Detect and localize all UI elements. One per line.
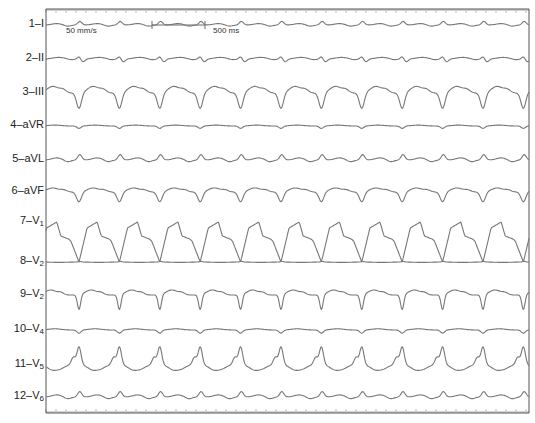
lead-label-7: 7–V1 [20, 214, 44, 230]
lead-label-12: 12–V6 [14, 389, 44, 405]
lead-label-8: 8–V2 [20, 254, 44, 270]
lead-trace-10 [46, 329, 529, 333]
lead-trace-5 [46, 155, 529, 162]
lead-trace-7 [46, 222, 529, 262]
lead-trace-2 [46, 57, 529, 62]
top-ruler-ticks [46, 9, 528, 13]
lead-trace-6 [46, 188, 529, 202]
lead-label-9: 9–V2 [20, 287, 44, 303]
lead-trace-11 [46, 347, 529, 371]
lead-label-5: 5–aVL [12, 152, 44, 164]
ecg-figure: 1–I2–II3–III4–aVR5–aVL6–aVF7–V18–V29–V21… [0, 0, 535, 423]
scale-bar-label: 500 ms [213, 26, 239, 35]
lead-label-4: 4–aVR [10, 118, 44, 130]
lead-trace-4 [46, 125, 529, 128]
lead-label-6: 6–aVF [12, 184, 44, 196]
lead-label-10: 10–V4 [14, 322, 44, 338]
lead-label-3: 3–III [23, 85, 44, 97]
lead-trace-1 [46, 21, 529, 26]
lead-trace-8 [46, 261, 529, 262]
lead-trace-9 [46, 290, 529, 310]
lead-trace-12 [46, 392, 529, 399]
ecg-tracings [0, 0, 535, 423]
lead-label-2: 2–II [26, 51, 44, 63]
lead-label-11: 11–V5 [15, 357, 44, 373]
paper-speed-label: 50 mm/s [66, 26, 97, 35]
lead-trace-3 [46, 86, 529, 108]
lead-label-1: 1–I [29, 17, 44, 29]
bottom-ruler-ticks [46, 410, 528, 414]
